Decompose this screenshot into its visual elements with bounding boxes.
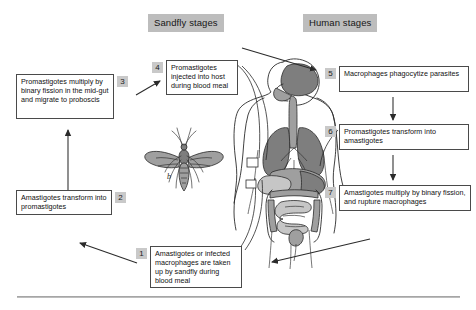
header-sandfly-stages: Sandfly stages (148, 14, 224, 32)
callout-stage-6-number: 6 (325, 126, 336, 137)
callout-stage-1-text: Amastigotes or infected macrophages are … (150, 246, 242, 288)
leader-4-to-skin (242, 66, 268, 160)
callout-stage-3-number: 3 (117, 76, 128, 87)
leader-1-to-bite-2 (245, 180, 262, 250)
callout-stage-2-text: Amastigotes transform into promastigotes (16, 190, 112, 215)
callout-stage-7[interactable]: 7 Amastigotes multiply by binary fission… (325, 185, 473, 211)
callout-stage-5[interactable]: 5 Macrophages phagocytize parasites (325, 66, 470, 92)
callout-stage-1[interactable]: 1 Amastigotes or infected macrophages ar… (136, 246, 244, 288)
callout-stage-7-number: 7 (325, 187, 336, 198)
arrow-1-to-2 (80, 243, 137, 263)
callout-stage-5-number: 5 (325, 68, 336, 79)
callout-stage-2-number: 2 (115, 192, 126, 203)
figure-bottom-rule (17, 296, 460, 298)
callout-stage-6[interactable]: 6 Promastigotes transform into amastigot… (325, 124, 470, 150)
callout-stage-2[interactable]: Amastigotes transform into promastigotes… (16, 190, 130, 215)
leader-1-to-bite (240, 178, 256, 248)
sandfly-label-b: b (167, 172, 171, 181)
arrow-4-to-5 (242, 48, 316, 70)
bite-site-marker-lower (246, 180, 256, 188)
callout-stage-3[interactable]: Promastigotes multiply by binary fission… (16, 74, 132, 119)
header-human-stages: Human stages (303, 14, 377, 32)
callout-stage-1-number: 1 (136, 248, 147, 259)
callout-stage-7-text: Amastigotes multiply by binary fission, … (339, 185, 471, 211)
callout-stage-5-text: Macrophages phagocytize parasites (339, 66, 469, 92)
callout-stage-4-number: 4 (152, 62, 163, 73)
callout-stage-3-text: Promastigotes multiply by binary fission… (16, 74, 114, 119)
callout-stage-4-text: Promastigotes injected into host during … (166, 60, 238, 95)
callout-stage-6-text: Promastigotes transform into amastigotes (339, 124, 469, 150)
callout-stage-4[interactable]: 4 Promastigotes injected into host durin… (152, 60, 240, 95)
life-cycle-figure: .ol{fill:none;stroke:#2b2b2b;stroke-widt… (0, 0, 476, 310)
arrow-7-to-1 (272, 239, 370, 262)
bite-site-marker-upper (247, 158, 258, 167)
